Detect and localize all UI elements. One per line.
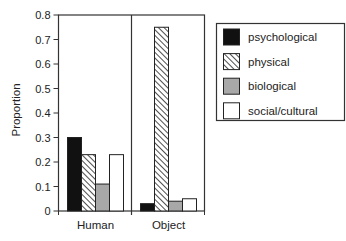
bar-biological bbox=[169, 201, 183, 211]
legend-label: biological bbox=[248, 80, 296, 92]
bar-psychological bbox=[141, 204, 155, 211]
y-tick-label: 0.8 bbox=[35, 9, 50, 21]
bar-biological bbox=[96, 184, 110, 211]
y-axis-ticks: 00.10.20.30.40.50.60.70.8 bbox=[35, 9, 58, 217]
x-axis-categories: HumanObject bbox=[77, 219, 186, 231]
x-category-label: Object bbox=[152, 219, 186, 231]
bar-physical bbox=[82, 155, 96, 211]
y-tick-label: 0.4 bbox=[35, 107, 50, 119]
y-tick-label: 0.6 bbox=[35, 58, 50, 70]
y-tick-label: 0 bbox=[44, 205, 50, 217]
legend-label: physical bbox=[248, 56, 290, 68]
y-tick-label: 0.2 bbox=[35, 156, 50, 168]
legend-swatch bbox=[224, 29, 240, 45]
y-tick-label: 0.1 bbox=[35, 181, 50, 193]
x-category-label: Human bbox=[77, 219, 114, 231]
y-tick-label: 0.3 bbox=[35, 132, 50, 144]
legend-swatch bbox=[224, 54, 240, 70]
legend: psychologicalphysicalbiologicalsocial/cu… bbox=[217, 24, 345, 121]
legend-label: social/cultural bbox=[248, 105, 318, 117]
y-tick-label: 0.5 bbox=[35, 83, 50, 95]
legend-swatch bbox=[224, 103, 240, 119]
bar-social-cultural bbox=[183, 199, 197, 211]
y-tick-label: 0.7 bbox=[35, 34, 50, 46]
bar-physical bbox=[155, 27, 169, 211]
bar-social-cultural bbox=[110, 155, 124, 211]
legend-swatch bbox=[224, 78, 240, 94]
y-axis-title: Proportion bbox=[10, 83, 22, 136]
bar-psychological bbox=[68, 138, 82, 212]
bar-chart: Proportion 00.10.20.30.40.50.60.70.8 Hum… bbox=[0, 0, 346, 241]
legend-label: psychological bbox=[248, 31, 317, 43]
